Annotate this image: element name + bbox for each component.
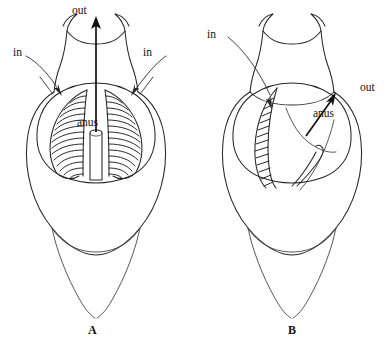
panel-b-in-label: in	[207, 28, 216, 40]
panel-a-out-label: out	[72, 4, 88, 16]
panel-b-caption: B	[288, 323, 296, 337]
panel-a-out-arrow	[91, 16, 101, 132]
panel-b-body-outline	[222, 92, 361, 318]
tunicate-diagram: out in in anus A	[0, 0, 392, 347]
panel-a-in-label-right: in	[143, 46, 152, 58]
panel-b-anus-label: anus	[313, 107, 335, 119]
panel-a: out in in anus A	[13, 4, 166, 337]
figure-root: out in in anus A	[0, 0, 392, 347]
panel-a-gill-slits-left	[52, 96, 86, 178]
panel-a-central-tube	[90, 130, 102, 180]
panel-a-caption: A	[88, 323, 97, 337]
panel-a-anus-label: anus	[77, 116, 99, 128]
panel-b-in-arrow-left	[228, 37, 272, 110]
panel-a-in-arrow-right	[131, 56, 166, 96]
panel-a-gill-slits-right	[106, 96, 140, 178]
panel-b: in out anus B	[207, 14, 376, 337]
panel-a-in-label-left: in	[13, 46, 22, 58]
panel-b-out-label: out	[360, 81, 376, 93]
